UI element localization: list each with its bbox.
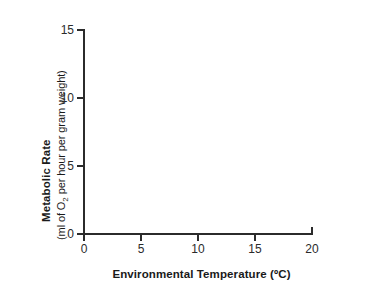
y-axis-tick-labels: 15 10 5 0 — [48, 0, 74, 245]
x-axis-tick-label-5: 5 — [121, 242, 161, 256]
y-axis-tick-15 — [77, 29, 83, 31]
x-axis-tick-5 — [140, 235, 142, 241]
x-axis-tick-0 — [83, 235, 85, 241]
y-axis-tick-label-15: 15 — [48, 23, 74, 37]
plot-area — [84, 30, 312, 234]
x-axis-tick-10 — [197, 235, 199, 241]
x-axis-tick-15 — [254, 235, 256, 241]
y-axis-line — [83, 29, 85, 235]
x-axis-title: Environmental Temperature (ºC) — [112, 268, 290, 280]
y-axis-tick-label-10: 10 — [48, 91, 74, 105]
x-axis-tick-label-0: 0 — [64, 242, 104, 256]
y-axis-tick-label-5: 5 — [48, 159, 74, 173]
y-axis-tick-10 — [77, 97, 83, 99]
y-axis-tick-label-0: 0 — [48, 227, 74, 241]
x-axis-tick-label-15: 15 — [235, 242, 275, 256]
y-axis-tick-5 — [77, 165, 83, 167]
x-axis-tick-label-20: 20 — [292, 242, 332, 256]
x-axis-tick-label-10: 10 — [178, 242, 218, 256]
metabolic-rate-chart: Metabolic Rate (ml of O2 per hour per gr… — [0, 0, 383, 303]
x-axis-title-group: Environmental Temperature (ºC) — [0, 268, 383, 280]
x-axis-tick-20 — [311, 227, 313, 233]
